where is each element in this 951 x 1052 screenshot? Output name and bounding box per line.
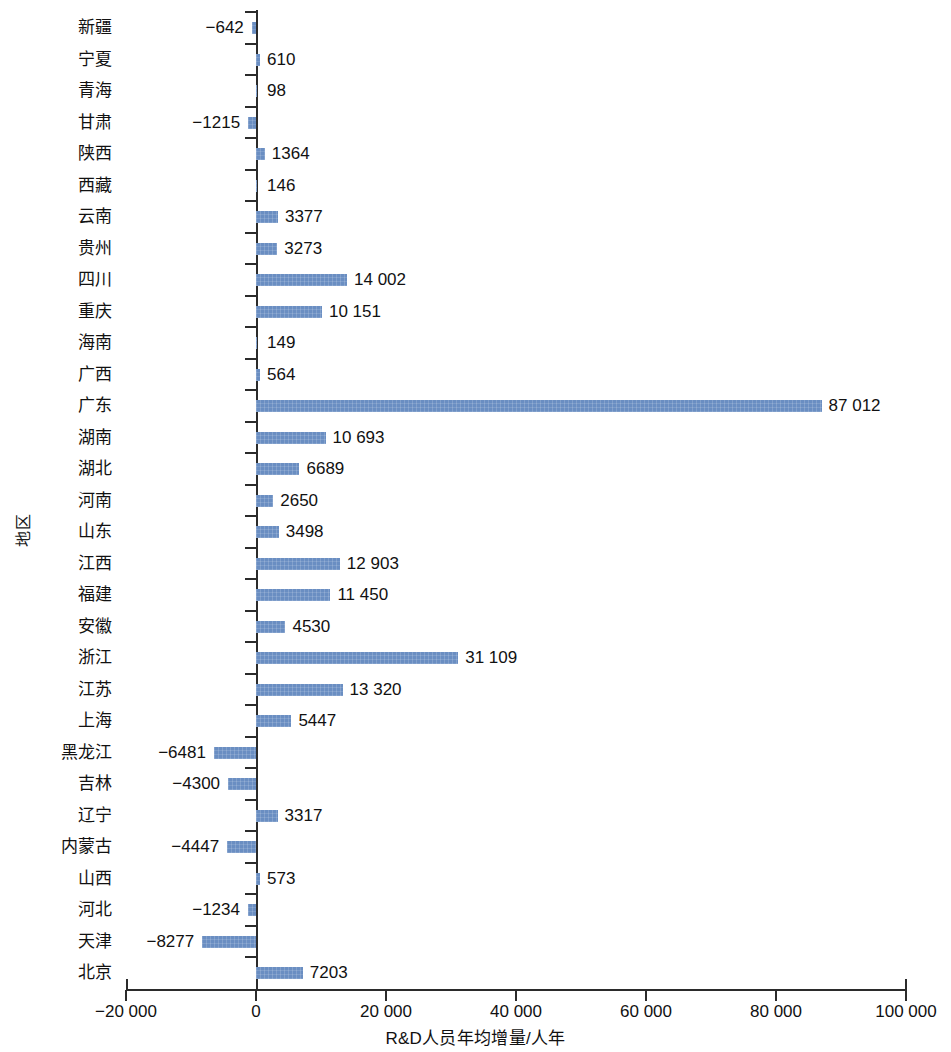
bar-row: 湖北6689 — [0, 453, 951, 485]
bar — [256, 243, 277, 255]
y-axis-tick — [245, 893, 257, 895]
bar-value-label: 1364 — [272, 138, 310, 170]
y-axis-tick — [245, 484, 257, 486]
bar-row: 四川14 002 — [0, 264, 951, 296]
bar-value-label: −6481 — [158, 737, 206, 769]
bar — [256, 967, 303, 979]
bar — [227, 841, 256, 853]
x-axis-tick — [905, 990, 907, 1001]
y-axis-tick — [245, 421, 257, 423]
bar-value-label: 10 151 — [329, 296, 381, 328]
bar — [256, 148, 265, 160]
bar — [256, 684, 343, 696]
bar — [248, 117, 256, 129]
bar-row: 河南2650 — [0, 485, 951, 517]
region-label: 宁夏 — [0, 44, 112, 76]
bar-value-label: 7203 — [310, 957, 348, 989]
y-axis-tick — [245, 452, 257, 454]
y-axis-tick — [245, 232, 257, 234]
bar-row: 贵州3273 — [0, 233, 951, 265]
bar — [256, 621, 285, 633]
region-label: 河北 — [0, 894, 112, 926]
bar-value-label: −642 — [206, 12, 244, 44]
bar-row: 山西573 — [0, 863, 951, 895]
bar-value-label: −1234 — [192, 894, 240, 926]
bar-row: 安徽4530 — [0, 611, 951, 643]
bar-value-label: 564 — [267, 359, 295, 391]
x-axis-tick — [125, 990, 127, 1001]
bar — [256, 180, 257, 192]
region-label: 北京 — [0, 957, 112, 989]
y-axis-tick — [245, 389, 257, 391]
region-label: 山西 — [0, 863, 112, 895]
region-label: 新疆 — [0, 12, 112, 44]
bar-value-label: 573 — [267, 863, 295, 895]
bar-value-label: 610 — [267, 44, 295, 76]
bar — [248, 904, 256, 916]
bar — [214, 747, 256, 759]
bar-value-label: 149 — [267, 327, 295, 359]
bar — [256, 873, 260, 885]
y-axis-tick — [245, 106, 257, 108]
bar-value-label: 5447 — [298, 705, 336, 737]
bar — [256, 526, 279, 538]
bar — [256, 369, 260, 381]
bar-row: 重庆10 151 — [0, 296, 951, 328]
bar-row: 云南3377 — [0, 201, 951, 233]
bar-row: 内蒙古−4447 — [0, 831, 951, 863]
y-axis-tick — [245, 169, 257, 171]
bar-chart: 地区 新疆−642宁夏610青海98甘肃−1215陕西1364西藏146云南33… — [0, 0, 951, 1052]
plot-area: 新疆−642宁夏610青海98甘肃−1215陕西1364西藏146云南3377贵… — [0, 0, 951, 990]
y-axis-tick — [245, 295, 257, 297]
y-axis-tick — [245, 956, 257, 958]
region-label: 吉林 — [0, 768, 112, 800]
y-axis-tick — [245, 547, 257, 549]
bar-row: 北京7203 — [0, 957, 951, 989]
region-label: 江西 — [0, 548, 112, 580]
bar-row: 江苏13 320 — [0, 674, 951, 706]
region-label: 湖南 — [0, 422, 112, 454]
bar — [256, 54, 260, 66]
region-label: 浙江 — [0, 642, 112, 674]
bar-row: 广东87 012 — [0, 390, 951, 422]
bar — [252, 22, 256, 34]
bar — [256, 589, 330, 601]
bar-row: 辽宁3317 — [0, 800, 951, 832]
region-label: 福建 — [0, 579, 112, 611]
x-axis-tick-label: 0 — [251, 1002, 260, 1022]
bar-row: 青海98 — [0, 75, 951, 107]
bar-value-label: 3377 — [285, 201, 323, 233]
y-axis-tick — [245, 830, 257, 832]
bar — [256, 810, 278, 822]
bar-value-label: 13 320 — [350, 674, 402, 706]
bar — [256, 337, 257, 349]
y-axis-tick — [245, 641, 257, 643]
bar-value-label: 146 — [267, 170, 295, 202]
region-label: 黑龙江 — [0, 737, 112, 769]
y-axis-tick — [245, 200, 257, 202]
y-axis-tick — [245, 74, 257, 76]
y-axis-tick — [245, 137, 257, 139]
y-axis-tick — [245, 515, 257, 517]
bar — [256, 715, 291, 727]
x-axis-tick-label: −20 000 — [95, 1002, 157, 1022]
bar — [256, 400, 822, 412]
region-label: 山东 — [0, 516, 112, 548]
bar — [256, 558, 340, 570]
y-axis-tick — [245, 862, 257, 864]
bar-row: 福建11 450 — [0, 579, 951, 611]
bar-row: 天津−8277 — [0, 926, 951, 958]
region-label: 贵州 — [0, 233, 112, 265]
bar-row: 江西12 903 — [0, 548, 951, 580]
bar-value-label: 3273 — [284, 233, 322, 265]
region-label: 内蒙古 — [0, 831, 112, 863]
x-axis-tick-label: 60 000 — [620, 1002, 672, 1022]
x-axis-tick — [515, 990, 517, 1001]
bar-value-label: −4447 — [171, 831, 219, 863]
region-label: 安徽 — [0, 611, 112, 643]
region-label: 广西 — [0, 359, 112, 391]
x-axis-tick — [775, 990, 777, 1001]
region-label: 上海 — [0, 705, 112, 737]
region-label: 天津 — [0, 926, 112, 958]
x-axis-tick-label: 40 000 — [490, 1002, 542, 1022]
